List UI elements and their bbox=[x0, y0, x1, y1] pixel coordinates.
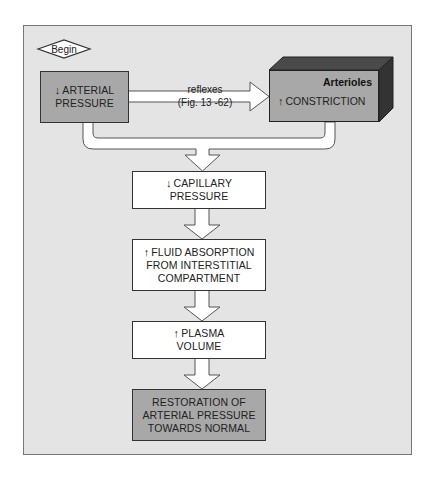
node-line: VOLUME bbox=[177, 340, 222, 353]
up-arrow-icon: ↑ bbox=[144, 246, 150, 258]
node-line: RESTORATION OF bbox=[152, 396, 246, 409]
node-restoration: RESTORATION OF ARTERIAL PRESSURE TOWARDS… bbox=[132, 389, 266, 441]
node-line: PRESSURE bbox=[170, 190, 229, 203]
up-arrow-icon: ↑ bbox=[174, 327, 180, 339]
node-line: FROM INTERSTITIAL bbox=[146, 259, 252, 272]
node-fluid-absorption: ↑FLUID ABSORPTION FROM INTERSTITIAL COMP… bbox=[132, 239, 266, 291]
node-arterioles: Arterioles ↑CONSTRICTION bbox=[269, 70, 379, 122]
node-plasma-volume: ↑PLASMA VOLUME bbox=[132, 321, 266, 359]
arrow-capillary-to-fluid bbox=[184, 208, 220, 239]
node-line: ↑PLASMA bbox=[174, 327, 225, 340]
arrow-plasma-to-restoration bbox=[184, 358, 220, 389]
down-arrow-icon: ↓ bbox=[55, 84, 61, 96]
arrow-fluid-to-plasma bbox=[184, 290, 220, 321]
down-arrow-icon: ↓ bbox=[166, 177, 172, 189]
arterioles-text: ↑CONSTRICTION bbox=[278, 95, 365, 107]
up-arrow-icon: ↑ bbox=[278, 95, 284, 107]
node-line: ↑FLUID ABSORPTION bbox=[144, 246, 255, 259]
node-line: PRESSURE bbox=[55, 97, 114, 110]
arterioles-cube-top bbox=[269, 57, 393, 70]
node-line: ↓CAPILLARY bbox=[166, 177, 232, 190]
merge-pipe-arrow bbox=[83, 122, 335, 171]
node-line: COMPARTMENT bbox=[158, 272, 240, 285]
edge-label-line: reflexes bbox=[166, 83, 244, 96]
begin-label: Begin bbox=[38, 40, 90, 58]
node-capillary-pressure: ↓CAPILLARY PRESSURE bbox=[132, 171, 266, 209]
reflexes-label: reflexes (Fig. 13 -62) bbox=[166, 83, 244, 109]
edge-label-line: (Fig. 13 -62) bbox=[166, 96, 244, 109]
node-line: TOWARDS NORMAL bbox=[148, 422, 250, 435]
arterioles-title: Arterioles bbox=[323, 76, 372, 88]
node-line: ↓ARTERIAL bbox=[55, 84, 115, 97]
begin-text: Begin bbox=[51, 44, 77, 55]
node-arterial-pressure: ↓ARTERIAL PRESSURE bbox=[40, 71, 129, 123]
node-line: ARTERIAL PRESSURE bbox=[142, 409, 255, 422]
